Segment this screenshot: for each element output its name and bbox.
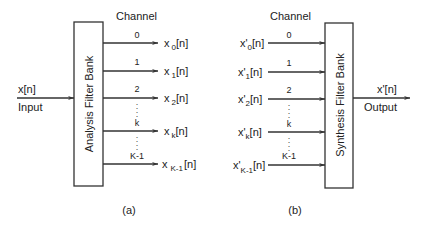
- synthesis-filter-bank-label: Synthesis Filter Bank: [334, 53, 346, 157]
- output-signal-k: xk[n]: [164, 125, 188, 140]
- input-label: Input: [18, 101, 42, 113]
- output-label: Output: [364, 101, 397, 113]
- input-signal-k: x'k[n]: [238, 126, 262, 141]
- filter-bank-diagram: Channel x[n] Input Analysis Filter Bank …: [0, 0, 427, 228]
- input-signal-K-1: x'K-1[n]: [233, 159, 265, 175]
- panel-a-analysis: Channel x[n] Input Analysis Filter Bank …: [17, 10, 196, 216]
- output-signal-K-1: xK-1[n]: [162, 158, 196, 173]
- channel-heading-a: Channel: [116, 10, 157, 22]
- channel-index-K-1-b: K-1: [282, 151, 296, 161]
- input-signal-0: x'0[n]: [240, 37, 264, 52]
- output-signal-0: x0[n]: [164, 37, 188, 52]
- output-signal-2: x2[n]: [164, 92, 188, 107]
- channel-index-K-1: K-1: [130, 151, 144, 161]
- channel-index-2: 2: [134, 84, 139, 94]
- caption-b: (b): [288, 204, 301, 216]
- input-signal-2: x'2[n]: [238, 93, 262, 108]
- channel-index-k-b: k: [287, 119, 292, 129]
- channel-index-1: 1: [134, 57, 139, 67]
- channel-index-k: k: [135, 118, 140, 128]
- channel-index-1-b: 1: [286, 58, 291, 68]
- input-signal-label: x[n]: [18, 83, 36, 95]
- channel-index-2-b: 2: [286, 85, 291, 95]
- input-signal-1: x'1[n]: [238, 66, 262, 81]
- channel-index-0: 0: [134, 30, 139, 40]
- output-signal-1: x1[n]: [164, 65, 188, 80]
- caption-a: (a): [122, 204, 135, 216]
- analysis-filter-bank-label: Analysis Filter Bank: [83, 55, 95, 152]
- channel-heading-b: Channel: [270, 10, 311, 22]
- output-signal-label: x'[n]: [377, 83, 397, 95]
- channel-index-0-b: 0: [286, 30, 291, 40]
- panel-b-synthesis: Channel x'0[n] 0 x'1[n] 1 x'2[n] 2 : : x…: [233, 10, 410, 216]
